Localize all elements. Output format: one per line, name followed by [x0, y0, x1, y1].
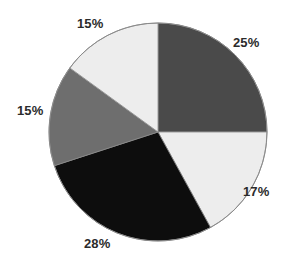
pie-label-17: 17%	[243, 185, 269, 198]
pie-label-25: 25%	[233, 36, 259, 49]
pie-label-28: 28%	[84, 237, 110, 250]
pie-slice-group	[49, 23, 267, 241]
pie-chart: 25% 17% 28% 15% 15%	[0, 0, 298, 268]
pie-label-15-left: 15%	[17, 104, 43, 117]
pie-label-15-top: 15%	[77, 17, 103, 30]
